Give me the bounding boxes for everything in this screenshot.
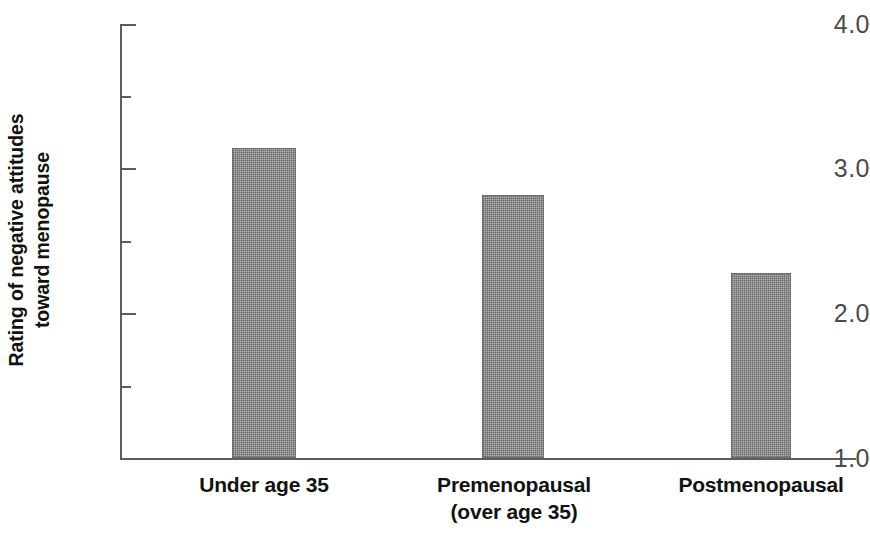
category-label-premenopausal-line-2: (over age 35): [398, 499, 630, 526]
y-axis-minor-tick-3-5: [122, 96, 131, 98]
category-label-premenopausal: Premenopausal (over age 35): [398, 472, 630, 526]
category-label-under-age-35-line-1: Under age 35: [148, 472, 380, 499]
y-axis-tick-2: [122, 313, 136, 315]
y-axis-title-line-2: toward menopause: [30, 114, 56, 367]
category-label-postmenopausal: Postmenopausal: [645, 472, 870, 499]
x-axis-line: [120, 458, 856, 460]
y-axis-minor-tick-1-5: [122, 386, 131, 388]
y-axis-tick-label-4: 4.0: [808, 10, 870, 39]
category-label-postmenopausal-line-1: Postmenopausal: [645, 472, 870, 499]
category-label-premenopausal-line-1: Premenopausal: [398, 472, 630, 499]
bar-postmenopausal: [731, 273, 791, 458]
y-axis-minor-tick-2-5: [122, 241, 131, 243]
category-label-under-age-35: Under age 35: [148, 472, 380, 499]
bar-under-age-35: [232, 148, 296, 458]
y-axis-tick-label-3: 3.0: [808, 154, 870, 183]
y-axis-tick-label-2: 2.0: [808, 299, 870, 328]
y-axis-tick-label-1: 1.0: [808, 444, 870, 473]
bar-chart-figure: Rating of negative attitudes toward meno…: [0, 0, 870, 543]
y-axis-title-line-1: Rating of negative attitudes: [4, 114, 30, 367]
y-axis-title: Rating of negative attitudes toward meno…: [0, 0, 60, 480]
bar-premenopausal: [482, 195, 544, 458]
y-axis-tick-4: [122, 24, 136, 26]
y-axis-tick-3: [122, 168, 136, 170]
